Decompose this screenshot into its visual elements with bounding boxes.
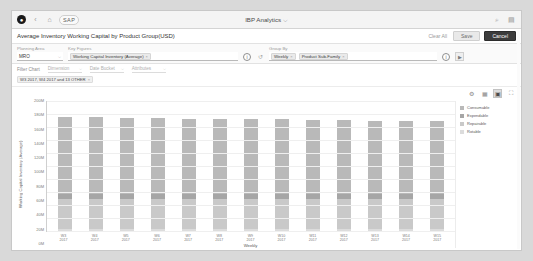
token[interactable]: Working Capital Inventory (Average) ×: [70, 53, 151, 60]
bar-segment[interactable]: [306, 120, 320, 194]
chevron-down-icon[interactable]: ⌵: [121, 66, 124, 71]
scrollbar[interactable]: [517, 30, 520, 249]
legend-item[interactable]: Expendable: [460, 113, 515, 118]
filter-chip[interactable]: W3 2017, W4 2017 and 13 OTHER ×: [17, 76, 93, 83]
shell-app-title[interactable]: IBP Analytics ⌵: [12, 16, 521, 24]
token[interactable]: Product Sub-Family ×: [299, 53, 348, 60]
bar-segment[interactable]: [337, 120, 351, 194]
bar-chart-icon[interactable]: ▣: [493, 89, 502, 98]
settings-icon[interactable]: ⚙: [467, 89, 476, 98]
x-axis-tick: W14 2017: [399, 234, 413, 242]
shell-app-title-text: IBP Analytics: [245, 16, 281, 23]
bar-segment[interactable]: [182, 119, 196, 194]
attributes-dropdown[interactable]: Attributes ⌵: [132, 66, 166, 73]
y-axis-tick: 120M: [34, 156, 44, 160]
legend-label: Rotable: [467, 129, 481, 134]
screenshot-root: ● ‹ ⌂ SAP IBP Analytics ⌵ ⌕ ▤ Average In…: [0, 0, 533, 261]
bar-segment[interactable]: [244, 199, 258, 229]
bar-segment[interactable]: [213, 199, 227, 229]
title-bar: Average Inventory Working Capital by Pro…: [12, 29, 521, 44]
close-icon[interactable]: ×: [290, 53, 292, 60]
gridline: [47, 166, 455, 167]
fullscreen-icon[interactable]: ⛶: [506, 89, 515, 98]
bar-segment[interactable]: [430, 121, 444, 194]
x-axis-tick: W6 2017: [150, 234, 164, 242]
go-button[interactable]: ▶: [455, 52, 464, 61]
bar-segment[interactable]: [244, 119, 258, 194]
home-icon[interactable]: ⌂: [45, 15, 54, 24]
y-axis-tick: 140M: [34, 142, 44, 146]
shell-bar-left: ● ‹ ⌂ SAP: [17, 15, 79, 25]
y-axis-tick: 180M: [34, 113, 44, 117]
x-axis-tick: W13 2017: [368, 234, 382, 242]
bar-segment[interactable]: [89, 117, 103, 194]
group-by-label: Group By: [269, 46, 437, 51]
bar-segment[interactable]: [58, 117, 72, 194]
bar-segment[interactable]: [430, 199, 444, 229]
key-figures-info-icon[interactable]: i: [243, 53, 251, 61]
bar-segment[interactable]: [399, 199, 413, 229]
chart-container: Working Capital Inventory (Average) 200M…: [12, 99, 521, 250]
chevron-down-icon[interactable]: ⌵: [283, 16, 288, 23]
x-axis-tick: W8 2017: [212, 234, 226, 242]
y-axis: 200M180M160M140M120M100M80M60M40M20M0M: [24, 101, 46, 248]
y-axis-tick: 100M: [34, 170, 44, 174]
x-axis-tick: W11 2017: [306, 234, 320, 242]
plot-canvas: [46, 101, 455, 232]
legend-item[interactable]: Repairable: [460, 121, 515, 126]
bar-segment[interactable]: [368, 199, 382, 229]
bar-segment[interactable]: [89, 199, 103, 229]
sap-brand-logo: SAP: [59, 15, 79, 25]
application-window: ● ‹ ⌂ SAP IBP Analytics ⌵ ⌕ ▤ Average In…: [11, 10, 522, 251]
key-figures-input[interactable]: Working Capital Inventory (Average) ×: [68, 52, 238, 61]
bar-segment[interactable]: [213, 119, 227, 194]
bar-segment[interactable]: [399, 121, 413, 194]
clear-all-button[interactable]: Clear All: [426, 33, 449, 39]
dimension-dropdown[interactable]: Dimension ⌵: [48, 66, 82, 73]
x-axis-tick: W7 2017: [181, 234, 195, 242]
bar-segment[interactable]: [120, 199, 134, 229]
history-icon[interactable]: ↺: [256, 53, 264, 61]
date-bucket-dropdown[interactable]: Date Bucket ⌵: [90, 66, 124, 73]
token[interactable]: Weekly ×: [271, 53, 296, 60]
bar-segment[interactable]: [151, 199, 165, 229]
bar-segment[interactable]: [58, 199, 72, 229]
x-axis-title: Weekly: [46, 242, 455, 248]
bar-segment[interactable]: [368, 121, 382, 194]
filter-bar: Planning Area MRO ⌵ Key Figures Working …: [12, 44, 521, 64]
back-icon[interactable]: ‹: [31, 15, 40, 24]
legend-item[interactable]: Rotable: [460, 129, 515, 134]
chevron-down-icon[interactable]: ⌵: [79, 66, 82, 71]
bar-segment[interactable]: [182, 199, 196, 229]
gridline: [47, 205, 455, 206]
search-icon[interactable]: ⌕: [492, 15, 501, 24]
legend-label: Consumable: [467, 105, 489, 110]
bar-segment[interactable]: [151, 118, 165, 194]
cancel-button[interactable]: Cancel: [484, 31, 516, 41]
chevron-down-icon[interactable]: ⌵: [58, 54, 61, 59]
chevron-down-icon[interactable]: ⌵: [163, 66, 166, 71]
legend-swatch: [460, 114, 464, 118]
save-button[interactable]: Save: [453, 31, 480, 41]
dimension-dropdown-value: Dimension: [48, 66, 70, 71]
legend-swatch: [460, 106, 464, 110]
gridline: [47, 231, 455, 232]
close-icon[interactable]: ×: [88, 76, 90, 83]
token-label: Weekly: [274, 53, 288, 60]
planning-area-select[interactable]: MRO ⌵: [17, 52, 63, 61]
group-by-info-icon[interactable]: i: [442, 53, 450, 61]
bar-segment[interactable]: [306, 199, 320, 229]
table-view-icon[interactable]: ▦: [480, 89, 489, 98]
group-by-input[interactable]: Weekly × Product Sub-Family ×: [269, 52, 437, 61]
close-icon[interactable]: ×: [342, 53, 344, 60]
bar-segment[interactable]: [337, 199, 351, 229]
gridline: [47, 179, 455, 180]
plot-area: Working Capital Inventory (Average) 200M…: [16, 101, 455, 248]
bar-segment[interactable]: [120, 118, 134, 194]
app-logo-icon[interactable]: ●: [17, 15, 26, 24]
legend-item[interactable]: Consumable: [460, 105, 515, 110]
close-icon[interactable]: ×: [146, 53, 148, 60]
user-menu-icon[interactable]: ▤: [507, 15, 516, 24]
bar-segment[interactable]: [275, 199, 289, 229]
bar-segment[interactable]: [275, 119, 289, 194]
